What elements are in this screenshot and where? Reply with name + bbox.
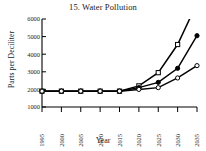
data-point-marker [98,89,102,93]
data-point-marker [59,89,63,93]
series-line [42,3,197,91]
data-point-marker [117,89,121,93]
data-point-marker [79,89,83,93]
y-tick-label: 6000 [27,15,40,22]
y-tick-label: 5000 [27,33,40,40]
x-tick-label: 2035 [193,134,200,147]
x-tick-label: 2000 [58,134,65,147]
data-point-marker [156,71,160,75]
chart-canvas: 100020003000400050006000 199520002005201… [0,0,206,151]
data-point-marker [176,66,180,70]
x-tick-label: 1995 [38,134,45,147]
data-point-marker [195,34,199,38]
x-tick-label: 2005 [77,134,84,147]
y-tick-label: 3000 [27,68,40,75]
data-point-marker [176,42,180,46]
x-tick-label: 2010 [97,134,104,147]
x-tick-group: 199520002005201020152020202520302035 [38,107,200,147]
y-tick-label: 1000 [27,103,40,110]
x-tick-label: 2030 [174,134,181,147]
data-point-marker [156,80,160,84]
x-tick-label: 2015 [116,134,123,147]
series-line [42,66,197,92]
x-tick-label: 2020 [135,134,142,147]
data-point-marker [176,76,180,80]
data-point-marker [40,89,44,93]
y-tick-label: 4000 [27,51,40,58]
y-tick-group: 100020003000400050006000 [27,15,46,110]
x-tick-label: 2025 [155,134,162,147]
chart-figure: 15. Water Pollution Parts per Deciliter … [0,0,206,151]
data-point-marker [156,86,160,90]
data-point-marker [137,87,141,91]
series-line [42,36,197,91]
y-tick-label: 2000 [27,86,40,93]
data-point-marker [195,64,199,68]
data-series-group [40,3,199,93]
